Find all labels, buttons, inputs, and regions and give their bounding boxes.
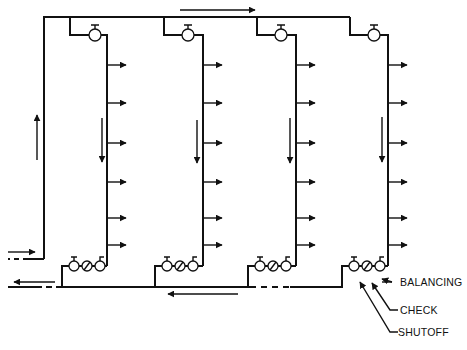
balancing-valve-icon — [375, 261, 385, 271]
riser-1 — [44, 17, 107, 266]
balancing-valve-icon — [188, 261, 198, 271]
valve-assemblies — [62, 257, 388, 287]
shutoff-valve-icon — [69, 261, 79, 271]
shutoff-valve-icon — [255, 261, 265, 271]
shutoff-valve-icon — [349, 261, 359, 271]
valve-assembly — [248, 257, 296, 287]
piping-diagram — [0, 0, 467, 350]
check-valve-label: CHECK — [400, 304, 438, 316]
label-leaders — [360, 279, 398, 332]
flow-arrows — [8, 10, 382, 294]
shutoff-valve-label: SHUTOFF — [398, 326, 449, 338]
valve-assembly — [62, 257, 107, 287]
terminal-branches — [107, 65, 407, 245]
valve-assembly — [342, 257, 388, 287]
shutoff-valve-icon — [162, 261, 172, 271]
balancing-valve-icon — [281, 261, 291, 271]
balancing-valve-icon — [95, 261, 105, 271]
valve-assembly — [155, 257, 203, 287]
return-header — [8, 266, 342, 287]
supply-header — [8, 17, 350, 259]
balancing-valve-label: BALANCING — [400, 276, 462, 288]
